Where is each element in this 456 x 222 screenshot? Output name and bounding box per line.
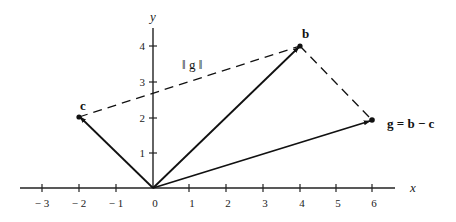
x-tick-label: 4 [299, 197, 305, 209]
vector-g-arrow [153, 121, 370, 188]
x-tick-label: 3 [262, 197, 268, 209]
x-tick-label: − 2 [72, 197, 86, 209]
x-tick-labels: − 3 − 2 − 1 0 1 2 3 4 5 6 [35, 197, 377, 209]
y-axis-label: y [148, 9, 156, 24]
point-b-dot [297, 43, 302, 48]
y-tick-label: 1 [140, 147, 146, 159]
dashed-b-to-g [300, 46, 372, 120]
vectors [80, 47, 370, 188]
x-tick-label: − 3 [35, 197, 50, 209]
x-tick-label: 2 [225, 197, 231, 209]
y-tick-label: 4 [140, 40, 146, 52]
label-g-equation: g = b − c [387, 116, 435, 131]
label-norm-g: ‖ g ‖ [182, 57, 202, 72]
x-tick-label: − 1 [109, 197, 123, 209]
dashed-segments [79, 46, 372, 120]
label-b: b [302, 26, 309, 41]
vector-b-arrow [153, 47, 299, 188]
y-tick-label: 2 [140, 112, 146, 124]
x-axis: − 3 − 2 − 1 0 1 2 3 4 5 6 x [20, 180, 416, 209]
vector-diagram: − 3 − 2 − 1 0 1 2 3 4 5 6 x 1 2 3 4 y [0, 0, 456, 222]
y-tick-label: 3 [140, 76, 146, 88]
label-c: c [80, 98, 86, 113]
x-tick-label: 1 [189, 197, 195, 209]
x-axis-label: x [409, 180, 416, 195]
point-c-dot [76, 114, 81, 119]
y-tick-labels: 1 2 3 4 [140, 40, 146, 159]
y-axis: 1 2 3 4 y [140, 9, 158, 188]
x-tick-label: 0 [152, 197, 158, 209]
x-tick-label: 6 [371, 197, 377, 209]
endpoint-dots [76, 43, 374, 122]
x-tick-label: 5 [335, 197, 341, 209]
point-g-dot [369, 117, 375, 123]
